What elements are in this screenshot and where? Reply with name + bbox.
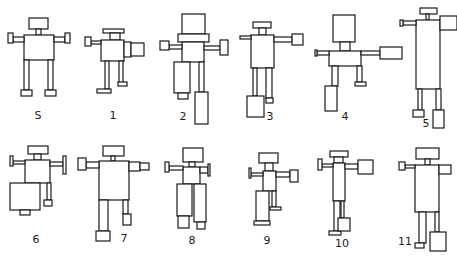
robot-left-foot <box>97 89 111 93</box>
robot-left-arm <box>251 173 263 176</box>
robot-right-hand <box>208 164 210 176</box>
robot-right-foot <box>118 82 127 86</box>
robot-right-leg <box>435 212 439 232</box>
robot-head <box>253 22 271 28</box>
robot-torso <box>99 161 129 200</box>
robot-neck <box>265 163 273 171</box>
robot-right-hand <box>290 170 298 182</box>
robot-right-foot <box>433 110 444 128</box>
robot-left-arm <box>169 45 182 49</box>
robot-right-hand <box>131 43 144 56</box>
robot-left-foot <box>96 231 110 241</box>
robot-right-leg <box>119 61 123 83</box>
robot-right-leg <box>272 191 276 207</box>
robot-figure-2: 2 <box>160 14 228 124</box>
robot-right-arm <box>200 167 208 173</box>
robot-figure-8: 8 <box>165 148 210 247</box>
robot-left-foot <box>21 90 32 96</box>
robot-right-hand <box>358 160 373 174</box>
robot-figure-11: 11 <box>398 148 451 251</box>
robot-left-leg <box>105 61 109 89</box>
robot-neck <box>110 33 120 40</box>
robot-head <box>183 148 203 162</box>
figure-label: 11 <box>398 235 412 248</box>
robot-torso <box>251 35 274 68</box>
robot-head <box>420 8 437 14</box>
robot-right-foot <box>338 218 350 231</box>
robot-right-foot <box>266 98 273 103</box>
robot-right-leg <box>194 184 206 222</box>
robot-head <box>28 146 48 154</box>
robot-left-arm <box>91 41 101 44</box>
robot-right-foot <box>430 232 446 251</box>
robot-right-arm <box>439 165 451 174</box>
robot-figure-10: 10 <box>318 151 373 250</box>
robot-right-leg <box>199 62 204 92</box>
robot-left-foot <box>254 221 270 225</box>
robot-neck <box>34 154 41 160</box>
robot-left-leg <box>418 89 422 110</box>
robot-torso <box>25 160 50 183</box>
robot-left-foot <box>20 210 30 215</box>
robot-torso <box>24 35 54 60</box>
robot-figure-4: 4 <box>315 15 402 123</box>
robot-head <box>182 14 205 34</box>
robot-right-leg <box>357 66 362 82</box>
figure-label: 6 <box>33 233 40 246</box>
robot-right-arm <box>129 162 140 171</box>
robot-left-arm <box>403 21 416 25</box>
robot-torso <box>182 42 204 62</box>
robot-figure-s: S <box>8 18 70 122</box>
robot-left-foot <box>413 110 424 117</box>
robot-right-leg <box>341 201 344 218</box>
robot-right-leg <box>123 200 128 214</box>
robot-left-arm <box>240 36 251 39</box>
robot-head <box>330 151 348 157</box>
robot-left-arm <box>317 51 329 55</box>
figure-label: 9 <box>264 234 271 247</box>
robot-right-hand <box>380 47 402 59</box>
robot-left-hand <box>78 158 86 170</box>
figure-label: 3 <box>267 110 274 123</box>
robot-left-hand <box>10 156 13 166</box>
figure-label: 2 <box>180 110 187 123</box>
robot-head <box>103 146 124 156</box>
robot-left-hand <box>8 33 13 43</box>
robot-head <box>29 18 48 29</box>
figure-label: 8 <box>189 234 196 247</box>
robot-left-foot <box>329 231 341 235</box>
robot-left-arm <box>322 164 333 167</box>
robot-left-hand <box>315 50 317 56</box>
robot-right-leg <box>436 89 441 110</box>
robot-figure-3: 3 <box>240 22 303 123</box>
robot-right-arm <box>50 162 63 166</box>
robot-right-hand <box>65 33 70 43</box>
robot-figure-7: 7 <box>78 146 149 245</box>
robot-left-leg <box>419 212 426 243</box>
robot-left-leg <box>253 68 257 96</box>
robot-left-leg-block <box>10 183 40 210</box>
robot-left-arm <box>405 165 415 168</box>
robot-left-leg <box>24 60 29 90</box>
robot-left-hand <box>249 168 251 178</box>
robot-right-foot <box>355 82 366 86</box>
robot-left-hand <box>85 37 91 46</box>
robot-left-hand <box>160 41 169 50</box>
robot-torso <box>101 40 124 61</box>
robot-right-hand <box>63 156 66 174</box>
robot-neck <box>111 156 115 161</box>
robot-left-foot <box>178 216 189 228</box>
robot-right-leg <box>48 60 53 90</box>
robot-hat-brim <box>178 34 209 42</box>
robot-left-leg <box>174 62 190 93</box>
robot-right-arm <box>361 51 380 55</box>
figure-label: 1 <box>110 109 117 122</box>
robot-neck <box>426 14 429 20</box>
robot-figure-1: 1 <box>85 29 144 122</box>
robot-figures-diagram: S1234567891011 <box>0 0 457 258</box>
robot-left-leg <box>256 191 269 221</box>
robot-right-arm <box>274 37 292 42</box>
robot-right-hand <box>292 34 303 45</box>
robot-left-arm <box>86 162 99 168</box>
figure-label: 5 <box>423 117 430 130</box>
